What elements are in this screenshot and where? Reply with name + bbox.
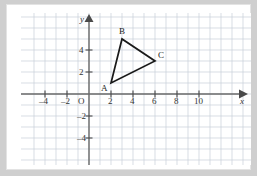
x-tick-label-2: 2 xyxy=(108,97,113,106)
y-tick-label-2: 2 xyxy=(79,68,84,77)
grid-vertical-lines xyxy=(34,13,243,165)
x-tick-label--4: –4 xyxy=(39,97,48,106)
y-tick-label--4: –4 xyxy=(77,134,86,143)
x-tick-label-6: 6 xyxy=(152,97,157,106)
vertex-label-b: B xyxy=(119,27,125,36)
y-tick-label-4: 4 xyxy=(79,46,84,55)
origin-label: O xyxy=(78,97,85,106)
worksheet-sheet: –4 –2 2 4 6 8 10 4 2 –2 –4 O x y A B C xyxy=(7,5,250,169)
coordinate-plane-figure: –4 –2 2 4 6 8 10 4 2 –2 –4 O x y A B C xyxy=(21,13,251,165)
x-tick-label-4: 4 xyxy=(130,97,135,106)
grid-horizontal-lines xyxy=(21,17,251,160)
screenshot-canvas: –4 –2 2 4 6 8 10 4 2 –2 –4 O x y A B C xyxy=(0,0,257,176)
x-tick-label--2: –2 xyxy=(61,97,70,106)
vertex-label-c: C xyxy=(158,51,164,60)
figure-svg xyxy=(21,13,251,165)
x-tick-label-8: 8 xyxy=(174,97,179,106)
x-axis-label: x xyxy=(240,97,244,106)
x-tick-label-10: 10 xyxy=(194,97,203,106)
vertex-label-a: A xyxy=(101,84,108,93)
y-axis-label: y xyxy=(80,15,84,24)
y-tick-label--2: –2 xyxy=(77,112,86,121)
grid-layer xyxy=(21,13,251,165)
